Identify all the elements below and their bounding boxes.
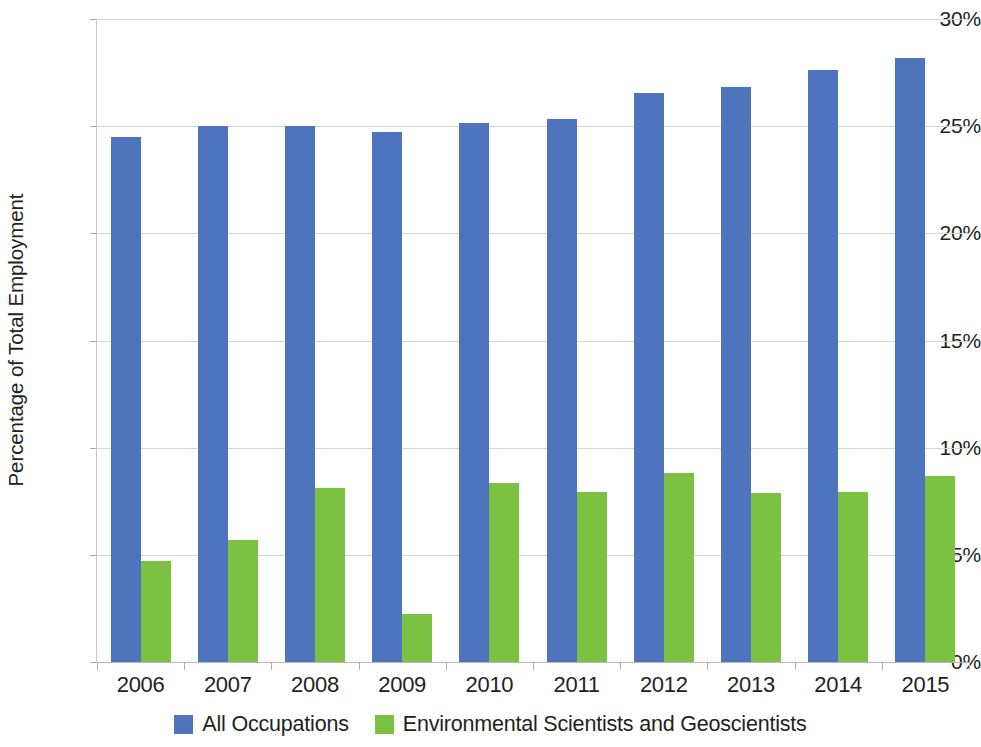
bar-chart: Percentage of Total Employment 0%5%10%15… [0, 0, 981, 747]
bar-group-2010 [446, 19, 533, 662]
bar-2008-all-occupations [285, 126, 315, 662]
bar-2013-all-occupations [721, 87, 751, 662]
x-tick-label-2007: 2007 [184, 672, 271, 698]
bar-2007-environmental-scientists [228, 540, 258, 662]
bar-2012-environmental-scientists [664, 473, 694, 662]
legend-label: All Occupations [202, 712, 348, 737]
legend-swatch-icon [174, 715, 193, 734]
x-tick-mark [359, 662, 360, 670]
bar-group-2012 [620, 19, 707, 662]
bar-group-2007 [184, 19, 271, 662]
legend-item-all-occupations[interactable]: All Occupations [174, 712, 348, 737]
x-tick-label-2008: 2008 [271, 672, 358, 698]
bar-2014-environmental-scientists [838, 492, 868, 662]
bar-2015-environmental-scientists [925, 476, 955, 662]
x-tick-mark [795, 662, 796, 670]
x-tick-label-2015: 2015 [882, 672, 969, 698]
bar-2006-all-occupations [111, 137, 141, 662]
bar-2010-environmental-scientists [489, 483, 519, 662]
x-tick-mark [533, 662, 534, 670]
y-axis-title: Percentage of Total Employment [0, 0, 32, 680]
bar-group-2015 [882, 19, 969, 662]
bar-group-2011 [533, 19, 620, 662]
bar-2010-all-occupations [459, 123, 489, 662]
bar-2009-environmental-scientists [402, 614, 432, 662]
x-tick-label-2013: 2013 [707, 672, 794, 698]
x-tick-mark [707, 662, 708, 670]
x-tick-label-2010: 2010 [446, 672, 533, 698]
x-tick-mark [882, 662, 883, 670]
bar-2014-all-occupations [808, 70, 838, 662]
x-tick-mark [271, 662, 272, 670]
y-axis-title-label: Percentage of Total Employment [4, 194, 28, 487]
legend-item-environmental-scientists[interactable]: Environmental Scientists and Geoscientis… [375, 712, 807, 737]
x-tick-mark [620, 662, 621, 670]
x-tick-mark [184, 662, 185, 670]
x-tick-label-2011: 2011 [533, 672, 620, 698]
x-tick-mark [97, 662, 98, 670]
chart-legend: All OccupationsEnvironmental Scientists … [0, 712, 981, 737]
bar-2008-environmental-scientists [315, 488, 345, 662]
x-tick-label-2014: 2014 [795, 672, 882, 698]
bar-2012-all-occupations [634, 93, 664, 662]
bar-group-2009 [359, 19, 446, 662]
bar-2011-all-occupations [547, 119, 577, 662]
bar-2007-all-occupations [198, 126, 228, 662]
x-tick-mark [969, 662, 970, 670]
x-tick-label-2006: 2006 [97, 672, 184, 698]
bar-2006-environmental-scientists [141, 561, 171, 662]
bar-2013-environmental-scientists [751, 493, 781, 662]
x-tick-label-2012: 2012 [620, 672, 707, 698]
bar-group-2013 [707, 19, 794, 662]
legend-label: Environmental Scientists and Geoscientis… [403, 712, 807, 737]
bar-2015-all-occupations [895, 58, 925, 662]
bar-2009-all-occupations [372, 132, 402, 662]
bar-group-2014 [795, 19, 882, 662]
bar-group-2008 [271, 19, 358, 662]
bar-2011-environmental-scientists [577, 492, 607, 662]
plot-area [97, 19, 969, 662]
bar-group-2006 [97, 19, 184, 662]
legend-swatch-icon [375, 715, 394, 734]
x-tick-mark [446, 662, 447, 670]
x-tick-label-2009: 2009 [359, 672, 446, 698]
